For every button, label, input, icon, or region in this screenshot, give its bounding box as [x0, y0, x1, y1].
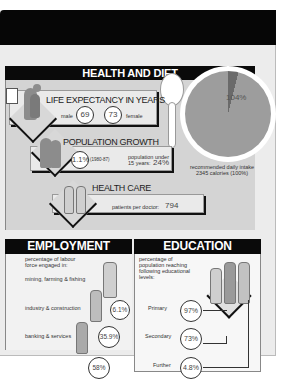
family-icon: [50, 140, 61, 168]
person-icon: [30, 94, 40, 118]
sector-value: 6.1%: [110, 300, 130, 320]
female-label: female: [126, 113, 143, 119]
student-icon: [238, 262, 250, 304]
doctor-icon: [64, 186, 74, 214]
pie-label: 104%: [226, 93, 246, 102]
connector-line: [203, 300, 249, 368]
male-value: 69: [76, 106, 94, 124]
education-level-value: 4.8%: [180, 357, 202, 379]
calorie-pie-chart: [185, 71, 271, 157]
patients-per-doctor-label: patients per doctor:: [112, 204, 159, 210]
employment-intro-2: force engaged in:: [25, 262, 68, 268]
education-level-value: 97%: [180, 300, 202, 322]
education-intro-4: levels:: [139, 274, 155, 280]
sector-label: banking & services: [25, 333, 71, 339]
person-head-icon: [33, 84, 41, 92]
education-title: EDUCATION: [134, 239, 261, 254]
student-icon: [210, 268, 222, 304]
diet-caption: recommended daily intake 2345 calories (…: [182, 164, 262, 176]
education-level-value: 73%: [180, 328, 202, 350]
student-icon: [224, 262, 236, 304]
education-level-label: Secondary: [145, 333, 171, 339]
nurse-icon: [76, 186, 86, 214]
diet-caption-line2: 2345 calories (100%): [182, 170, 262, 176]
education-level-label: Further: [153, 362, 171, 368]
sector-label: mining, farming & fishing: [25, 276, 85, 282]
growth-rate: 1.1%: [71, 151, 89, 169]
patients-per-doctor-value: 794: [165, 201, 178, 210]
spoon-handle-icon: [168, 102, 176, 148]
sector-value: 58%: [88, 357, 110, 379]
calendar-icon: [6, 88, 18, 104]
under15-label-2: 15 years:: [128, 160, 151, 166]
sector-value: 35.9%: [98, 326, 120, 348]
education-level-label: Primary: [148, 305, 167, 311]
employment-title: EMPLOYMENT: [5, 239, 132, 254]
banker-icon: [76, 322, 88, 354]
population-growth-title: POPULATION GROWTH: [63, 137, 159, 147]
title-banner: [0, 10, 276, 45]
life-expectancy-title: LIFE EXPECTANCY IN YEARS: [46, 95, 165, 105]
farmer-icon: [103, 262, 117, 298]
growth-period: (1980-87): [90, 157, 110, 163]
under15-value: 24%: [153, 158, 169, 167]
sector-label: industry & construction: [25, 305, 81, 311]
health-care-title: HEALTH CARE: [92, 183, 151, 193]
worker-icon: [90, 290, 102, 322]
male-label: male: [61, 113, 73, 119]
female-value: 73: [104, 106, 122, 124]
